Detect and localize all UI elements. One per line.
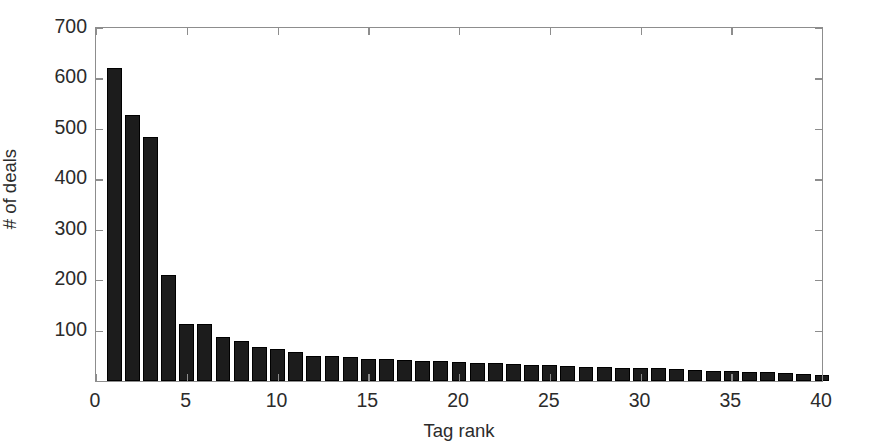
- x-axis-tick: [96, 374, 97, 381]
- y-axis-tick-label: 200: [54, 269, 87, 289]
- x-axis-tick: [96, 28, 97, 35]
- bar: [433, 361, 448, 381]
- x-axis-tick: [822, 374, 823, 381]
- y-axis-tick: [96, 280, 103, 281]
- bar: [778, 373, 793, 381]
- x-axis-tick: [187, 374, 188, 381]
- y-axis-tick: [815, 129, 822, 130]
- bar: [107, 68, 122, 381]
- y-axis-tick: [815, 179, 822, 180]
- bar: [234, 341, 249, 381]
- bar: [379, 359, 394, 381]
- x-axis-tick: [731, 28, 732, 35]
- x-axis-tick-label: 15: [356, 391, 378, 411]
- x-axis-tick: [550, 28, 551, 35]
- y-axis-tick-label: 600: [54, 68, 87, 88]
- bar: [615, 368, 630, 381]
- bar: [524, 365, 539, 381]
- bar: [688, 370, 703, 381]
- y-axis-tick: [96, 179, 103, 180]
- x-axis-tick-label: 5: [180, 391, 191, 411]
- x-axis-tick: [459, 28, 460, 35]
- x-axis-tick-label: 20: [447, 391, 469, 411]
- x-axis-tick-label: 0: [90, 391, 101, 411]
- bar: [216, 337, 231, 381]
- x-axis-tick-label: 35: [719, 391, 741, 411]
- y-axis-tick: [815, 230, 822, 231]
- bar: [506, 364, 521, 381]
- x-axis-tick-label: 25: [538, 391, 560, 411]
- x-axis-tick: [368, 28, 369, 35]
- x-axis-tick: [187, 28, 188, 35]
- bars-layer: [96, 28, 822, 381]
- bar: [742, 372, 757, 381]
- bar: [143, 137, 158, 381]
- bar: [343, 357, 358, 381]
- y-axis-tick-label: 400: [54, 169, 87, 189]
- x-axis-title: Tag rank: [95, 420, 823, 442]
- bar: [415, 361, 430, 381]
- bar: [179, 324, 194, 381]
- y-axis-tick: [96, 230, 103, 231]
- bar: [197, 324, 212, 381]
- bar: [579, 367, 594, 381]
- bar: [669, 369, 684, 381]
- chart-figure: 100200300400500600700 0510152025303540 T…: [0, 0, 870, 446]
- bar: [252, 347, 267, 381]
- bar: [306, 356, 321, 381]
- x-axis-tick: [641, 374, 642, 381]
- x-axis-tick: [641, 28, 642, 35]
- x-axis-tick: [459, 374, 460, 381]
- y-axis-tick: [815, 331, 822, 332]
- bar: [161, 275, 176, 381]
- bar: [488, 363, 503, 381]
- x-axis-tick: [550, 374, 551, 381]
- bar: [706, 371, 721, 381]
- x-axis-tick: [278, 374, 279, 381]
- y-axis-tick-label: 700: [54, 17, 87, 37]
- y-axis-tick: [815, 78, 822, 79]
- bar: [397, 360, 412, 381]
- bar: [288, 352, 303, 381]
- bar: [597, 367, 612, 381]
- bar: [796, 374, 811, 381]
- y-axis-tick: [815, 280, 822, 281]
- bar: [760, 372, 775, 381]
- x-axis-tick: [731, 374, 732, 381]
- x-axis-tick: [822, 28, 823, 35]
- y-axis-tick: [96, 78, 103, 79]
- x-axis-tick-labels: 0510152025303540: [95, 391, 823, 417]
- y-axis-tick-label: 500: [54, 118, 87, 138]
- bar: [125, 115, 140, 381]
- x-axis-tick: [278, 28, 279, 35]
- y-axis-title: # of deals: [0, 109, 21, 269]
- y-axis-tick-label: 100: [54, 320, 87, 340]
- x-axis-tick: [368, 374, 369, 381]
- x-axis-tick-label: 40: [810, 391, 832, 411]
- bar: [560, 366, 575, 381]
- y-axis-tick: [815, 28, 822, 29]
- y-axis-tick: [96, 331, 103, 332]
- x-axis-tick-label: 10: [266, 391, 288, 411]
- y-axis-tick: [96, 129, 103, 130]
- plot-area: [95, 27, 823, 382]
- y-axis-tick-label: 300: [54, 219, 87, 239]
- bar: [325, 356, 340, 381]
- bar: [470, 363, 485, 381]
- bar: [651, 368, 666, 381]
- x-axis-tick-label: 30: [629, 391, 651, 411]
